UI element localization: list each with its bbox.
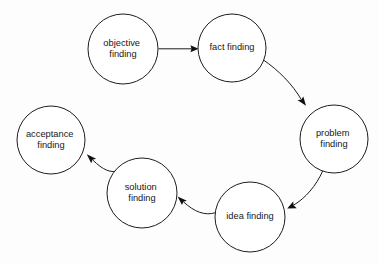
- node-objective-finding-label-line1: objective: [103, 38, 140, 48]
- node-solution-finding-label-line2: finding: [128, 193, 155, 203]
- node-solution-finding[interactable]: solution finding: [107, 158, 177, 228]
- node-solution-finding-label-line1: solution: [125, 182, 157, 192]
- node-solution-finding-label: solution finding: [125, 182, 160, 203]
- node-fact-finding-label: fact finding: [210, 43, 255, 53]
- edge-solution-to-acceptance: [87, 154, 120, 171]
- node-problem-finding-label-line1: problem: [316, 128, 350, 138]
- node-idea-finding-label-line1: idea finding: [226, 212, 274, 222]
- edge-problem-to-idea-line: [294, 171, 323, 205]
- node-problem-finding[interactable]: problem finding: [300, 105, 368, 173]
- cycle-diagram: objective finding fact finding problem f…: [0, 0, 379, 265]
- node-fact-finding-label-line1: fact finding: [210, 43, 255, 53]
- node-acceptance-finding-label-line1: acceptance: [26, 129, 74, 139]
- node-idea-finding[interactable]: idea finding: [215, 182, 285, 252]
- diagram-canvas: objective finding fact finding problem f…: [0, 0, 379, 265]
- node-problem-finding-label-line2: finding: [320, 139, 347, 149]
- edge-fact-to-problem: [263, 59, 306, 105]
- edge-objective-to-fact: [159, 45, 199, 52]
- node-objective-finding-label-line2: finding: [109, 49, 136, 59]
- edge-fact-to-problem-arrowhead: [297, 97, 306, 106]
- edge-problem-to-idea: [287, 171, 323, 209]
- edge-fact-to-problem-line: [263, 59, 302, 99]
- node-fact-finding[interactable]: fact finding: [198, 14, 266, 82]
- node-objective-finding[interactable]: objective finding: [88, 14, 158, 84]
- edge-objective-to-fact-arrowhead: [190, 45, 198, 52]
- node-acceptance-finding[interactable]: acceptance finding: [17, 106, 85, 174]
- edge-problem-to-idea-arrowhead: [287, 202, 297, 209]
- node-problem-finding-label: problem finding: [316, 128, 352, 149]
- edge-idea-to-solution: [178, 197, 216, 214]
- edge-idea-to-solution-line: [183, 202, 215, 214]
- node-acceptance-finding-label-line2: finding: [37, 140, 64, 150]
- node-idea-finding-label: idea finding: [226, 212, 274, 222]
